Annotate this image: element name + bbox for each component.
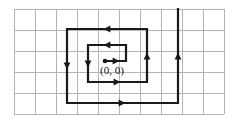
origin-coordinate-label: (0, 0) bbox=[100, 64, 124, 77]
direction-arrow-up bbox=[175, 53, 182, 60]
direction-arrow-right bbox=[119, 100, 126, 107]
spiral-diagram-canvas: (0, 0) bbox=[0, 0, 226, 123]
spiral-grid-figure: (0, 0) bbox=[0, 0, 226, 123]
direction-arrow-down bbox=[64, 63, 71, 70]
direction-arrow-down bbox=[85, 61, 92, 68]
origin-point-dot bbox=[103, 59, 108, 64]
direction-arrow-up bbox=[144, 53, 151, 60]
direction-arrow-left bbox=[104, 26, 111, 33]
direction-arrow-left bbox=[104, 42, 111, 49]
